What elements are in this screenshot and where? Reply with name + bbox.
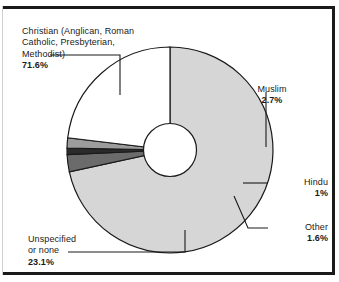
callout-christian: Christian (Anglican, Roman Catholic, Pre… (22, 14, 150, 83)
callout-muslim-percent: 2.7% (240, 95, 304, 107)
callout-other-percent: 1.6% (272, 233, 328, 245)
callout-christian-percent: 71.6% (22, 60, 150, 72)
callout-unspecified-percent: 23.1% (28, 257, 120, 269)
callout-other-name: Other (305, 222, 328, 232)
callout-muslim-name: Muslim (257, 84, 286, 94)
callout-muslim: Muslim 2.7% (240, 72, 304, 118)
callout-hindu-percent: 1% (272, 188, 328, 200)
callout-hindu: Hindu 1% (272, 165, 328, 211)
callout-other: Other 1.6% (272, 210, 328, 256)
callout-hindu-name: Hindu (304, 177, 328, 187)
donut-hole (144, 124, 197, 177)
pie-chart-figure: Christian (Anglican, Roman Catholic, Pre… (0, 0, 339, 282)
callout-christian-name: Christian (Anglican, Roman Catholic, Pre… (22, 26, 134, 59)
callout-unspecified: Unspecified or none 23.1% (28, 222, 120, 280)
callout-unspecified-name: Unspecified or none (28, 234, 76, 256)
